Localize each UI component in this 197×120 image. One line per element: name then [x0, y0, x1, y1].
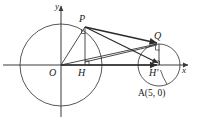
- axes-group: [3, 6, 188, 117]
- geometry-figure: y x O H P Q H' A(5, 0): [0, 0, 197, 120]
- segment-PQ: [85, 27, 157, 43]
- label-origin: O: [49, 67, 56, 78]
- leader-to-A: [161, 70, 168, 84]
- label-point-q: Q: [154, 30, 162, 41]
- segment-HQ: [85, 45, 157, 62]
- x-axis-label: x: [181, 65, 186, 75]
- label-foot-h: H: [77, 67, 86, 78]
- leader-line-group: [161, 70, 168, 84]
- segments-group: [61, 27, 159, 65]
- labels-group: y x O H P Q H' A(5, 0): [49, 1, 186, 99]
- label-point-a: A(5, 0): [138, 88, 165, 99]
- y-axis-label: y: [54, 1, 59, 11]
- geometry-canvas: y x O H P Q H' A(5, 0): [0, 0, 197, 120]
- label-foot-h-prime: H': [148, 67, 159, 78]
- label-point-p: P: [78, 13, 85, 24]
- segment-OQ: [61, 44, 157, 65]
